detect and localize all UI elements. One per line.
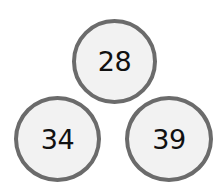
number-label: 39	[152, 124, 185, 155]
number-circle-bottom-right: 39	[125, 96, 213, 182]
number-circle-top: 28	[72, 19, 157, 104]
number-label: 28	[98, 46, 131, 77]
number-label: 34	[41, 124, 74, 155]
number-circle-bottom-left: 34	[14, 96, 101, 182]
